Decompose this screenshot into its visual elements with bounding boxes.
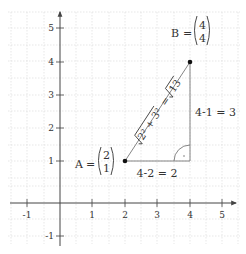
svg-text:2: 2 (103, 149, 110, 162)
x-tick-label: 2 (122, 210, 128, 220)
svg-text:=: = (183, 27, 192, 40)
point-a-label: A = 2 1 (74, 147, 114, 175)
svg-text:B: B (171, 27, 179, 40)
horizontal-leg-label: 4-2 = 2 (137, 167, 178, 180)
x-tick-label: -1 (23, 210, 32, 220)
x-tick-label: 5 (219, 210, 225, 220)
hypotenuse-label: 2² + 3² = 13 (132, 76, 184, 146)
y-tick-label: 4 (48, 57, 54, 67)
right-angle-arc (174, 145, 190, 161)
y-tick-label: 1 (48, 156, 54, 166)
x-tick-label: 3 (154, 210, 160, 220)
pythagoras-diagram: -1 1 2 3 4 5 5 4 3 2 1 -1 A = 2 1 B = (0, 0, 246, 254)
y-tick-label: 2 (48, 123, 54, 133)
svg-text:=: = (158, 95, 172, 108)
svg-text:=: = (86, 158, 95, 171)
point-a (123, 159, 128, 164)
svg-text:A: A (74, 158, 84, 171)
svg-text:4: 4 (199, 32, 206, 45)
right-angle-dot (183, 155, 185, 157)
vertical-leg-label: 4-1 = 3 (195, 106, 236, 119)
x-tick-label: 1 (89, 210, 95, 220)
x-tick-label: 4 (187, 210, 193, 220)
svg-text:4: 4 (199, 19, 206, 32)
y-tick-label: 3 (48, 90, 54, 100)
svg-text:13: 13 (167, 77, 183, 94)
y-tick-label: -1 (45, 231, 54, 241)
point-b-label: B = 4 4 (171, 16, 210, 45)
y-tick-label: 5 (48, 23, 54, 33)
point-b (188, 60, 193, 65)
svg-text:1: 1 (103, 162, 110, 175)
